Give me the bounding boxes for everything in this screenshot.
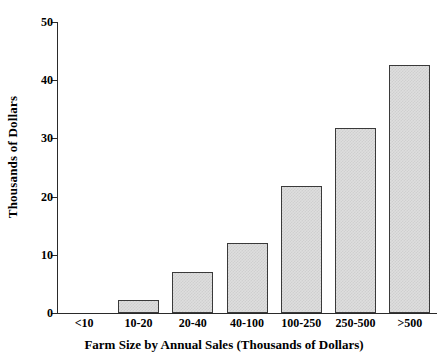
x-axis-line (57, 313, 437, 314)
x-axis-tick-label: 40-100 (220, 315, 274, 332)
bars-layer (57, 22, 437, 313)
bar (335, 128, 376, 313)
bar (281, 186, 322, 313)
y-axis-tick-label: 30 (41, 130, 53, 146)
x-axis-title-text: Farm Size by Annual Sales (Thousands of … (84, 337, 363, 352)
y-axis-tick-label: 40 (41, 72, 53, 88)
plot-area: 01020304050 (57, 22, 437, 313)
x-axis-tick-labels: <1010-2020-4040-100100-250250-500>500 (57, 315, 437, 335)
bar (227, 243, 268, 313)
y-axis-tick-label: 0 (47, 305, 53, 321)
bar (172, 272, 213, 313)
y-axis-title: Thousands of Dollars (0, 0, 26, 313)
x-axis-tick-label: 10-20 (111, 315, 165, 332)
x-axis-title: Farm Size by Annual Sales (Thousands of … (0, 336, 448, 354)
bar-chart: Thousands of Dollars 01020304050 <1010-2… (0, 0, 448, 359)
bar (389, 65, 430, 314)
x-axis-tick-label: 100-250 (274, 315, 328, 332)
y-axis-tick-label: 50 (41, 14, 53, 30)
y-axis-tick-label: 10 (41, 247, 53, 263)
x-axis-tick-label: <10 (57, 315, 111, 332)
x-axis-tick-label: 20-40 (166, 315, 220, 332)
y-axis-tick-label: 20 (41, 189, 53, 205)
x-axis-tick-label: 250-500 (328, 315, 382, 332)
y-axis-title-text: Thousands of Dollars (5, 95, 21, 217)
x-axis-tick-label: >500 (383, 315, 437, 332)
bar (118, 300, 159, 313)
